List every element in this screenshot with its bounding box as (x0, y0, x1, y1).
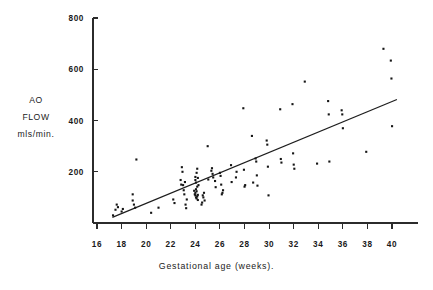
data-point (180, 184, 182, 186)
data-point (235, 176, 237, 178)
data-point (215, 186, 217, 188)
data-point (186, 198, 188, 200)
x-tick-label: 30 (264, 240, 274, 249)
data-point (328, 113, 330, 115)
data-point (266, 139, 268, 141)
data-point (236, 171, 238, 173)
x-axis-ticks: 16182022242628303234363840 (92, 223, 397, 249)
data-point (132, 193, 134, 195)
data-point (207, 178, 209, 180)
x-tick-label: 40 (387, 240, 397, 249)
data-point (194, 194, 196, 196)
data-point (280, 158, 282, 160)
data-point (183, 189, 185, 191)
x-axis-title: Gestational age (weeks). (0, 261, 433, 271)
x-tick-label: 20 (141, 240, 151, 249)
data-point (202, 194, 204, 196)
data-point (220, 184, 222, 186)
data-point (341, 109, 343, 111)
data-point (196, 190, 198, 192)
data-point (219, 172, 221, 174)
data-point (231, 181, 233, 183)
data-point (230, 164, 232, 166)
data-point (133, 204, 135, 206)
data-point (197, 199, 199, 201)
data-point (112, 214, 114, 216)
data-point (328, 161, 330, 163)
data-point (267, 166, 269, 168)
x-tick-label: 36 (338, 240, 348, 249)
data-point (135, 158, 137, 160)
data-point (202, 196, 204, 198)
data-point (252, 182, 254, 184)
data-point (214, 180, 216, 182)
data-point (210, 170, 212, 172)
x-tick-label: 18 (116, 240, 126, 249)
scatter-chart-figure: AO FLOW mls/min. 200400600800 1618202224… (0, 0, 433, 290)
data-point (201, 202, 203, 204)
data-point (194, 179, 196, 181)
data-point (197, 177, 199, 179)
x-tick-label: 16 (92, 240, 102, 249)
data-point (293, 164, 295, 166)
data-point (197, 184, 199, 186)
data-point (390, 77, 392, 79)
data-point (243, 169, 245, 171)
x-tick-label: 26 (215, 240, 225, 249)
data-point (256, 185, 258, 187)
data-point (185, 204, 187, 206)
data-point (211, 167, 213, 169)
data-point (181, 171, 183, 173)
data-point (221, 192, 223, 194)
data-point (291, 103, 293, 105)
data-point (255, 161, 257, 163)
data-point (196, 168, 198, 170)
y-tick-label: 200 (69, 168, 84, 177)
data-point (173, 202, 175, 204)
plot-area: 200400600800 16182022242628303234363840 (0, 0, 433, 290)
data-point (197, 194, 199, 196)
y-axis-ticks: 200400600800 (69, 14, 98, 177)
data-point (382, 48, 384, 50)
y-tick-label: 800 (69, 14, 84, 23)
data-point (207, 145, 209, 147)
data-point (180, 179, 182, 181)
data-point (182, 184, 184, 186)
data-point (183, 193, 185, 195)
axes-group (93, 18, 418, 223)
x-tick-label: 34 (313, 240, 323, 249)
data-point (204, 199, 206, 201)
data-point (220, 175, 222, 177)
data-point (390, 60, 392, 62)
data-point (316, 163, 318, 165)
data-point (222, 189, 224, 191)
data-point (266, 144, 268, 146)
data-point (181, 166, 183, 168)
y-tick-label: 400 (69, 117, 84, 126)
data-point (195, 188, 197, 190)
data-point (172, 198, 174, 200)
data-point (194, 176, 196, 178)
data-point (327, 100, 329, 102)
x-tick-label: 22 (166, 240, 176, 249)
data-point (203, 192, 205, 194)
data-point (251, 135, 253, 137)
data-point (391, 125, 393, 127)
data-point (280, 162, 282, 164)
data-point (184, 181, 186, 183)
data-point (267, 194, 269, 196)
data-point (114, 209, 116, 211)
data-point (116, 204, 118, 206)
data-point (196, 172, 198, 174)
x-tick-label: 24 (190, 240, 200, 249)
data-point (117, 206, 119, 208)
data-point (256, 174, 258, 176)
data-point (157, 207, 159, 209)
data-point (304, 81, 306, 83)
data-points (112, 48, 393, 217)
x-tick-label: 28 (239, 240, 249, 249)
data-point (132, 199, 134, 201)
data-point (342, 127, 344, 129)
data-point (193, 190, 195, 192)
data-point (292, 152, 294, 154)
